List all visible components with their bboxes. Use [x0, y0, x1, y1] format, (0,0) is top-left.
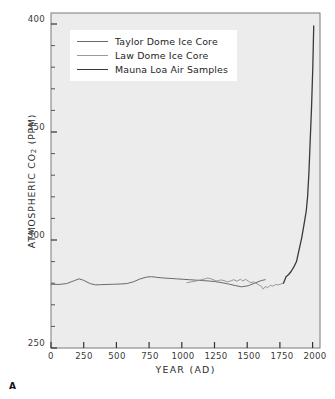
legend-item-mauna-loa: Mauna Loa Air Samples: [77, 62, 228, 76]
legend-label-taylor-dome: Taylor Dome Ice Core: [115, 36, 218, 47]
panel-letter: A: [9, 381, 16, 391]
x-axis-title: YEAR (AD): [48, 364, 323, 375]
co2-chart-figure: ATMOSPHERIC CO2 (PPM) 400 350 300 250 0 …: [0, 0, 335, 399]
legend-label-mauna-loa: Mauna Loa Air Samples: [115, 64, 228, 75]
legend-swatch-taylor-dome: [77, 41, 108, 42]
chart-legend: Taylor Dome Ice Core Law Dome Ice Core M…: [70, 30, 237, 81]
legend-swatch-mauna-loa: [77, 69, 108, 70]
legend-item-law-dome: Law Dome Ice Core: [77, 48, 228, 62]
legend-item-taylor-dome: Taylor Dome Ice Core: [77, 34, 228, 48]
legend-label-law-dome: Law Dome Ice Core: [115, 50, 208, 61]
legend-swatch-law-dome: [77, 55, 108, 56]
